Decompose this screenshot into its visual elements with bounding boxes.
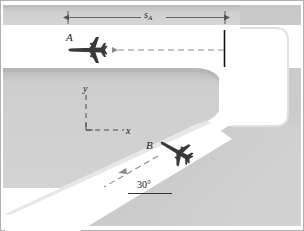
right-white-pocket: [240, 28, 288, 126]
label-plane-a: A: [66, 32, 73, 43]
label-distance-sa: sA: [144, 10, 152, 22]
label-angle-30-degrees: 30°: [137, 180, 151, 190]
aircraft-runway-figure: sA A B y x 30°: [0, 0, 304, 231]
figure-canvas: [0, 0, 304, 231]
label-plane-b: B: [146, 140, 153, 151]
label-axis-x: x: [126, 126, 130, 136]
label-axis-y: y: [83, 84, 87, 94]
